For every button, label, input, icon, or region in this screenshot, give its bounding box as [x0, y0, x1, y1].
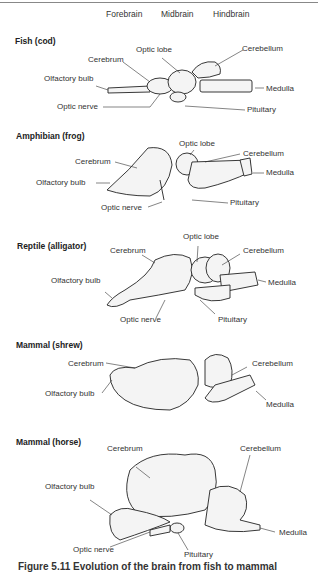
label-alligator-medulla: Medulla [268, 278, 296, 287]
label-shrew-olfactory-bulb: Olfactory bulb [45, 389, 94, 398]
label-horse-olfactory-bulb: Olfactory bulb [45, 482, 94, 491]
label-shrew-cerebellum: Cerebellum [252, 359, 293, 368]
label-shrew-medulla: Medulla [266, 400, 294, 409]
label-frog-pituitary: Pituitary [230, 198, 259, 207]
label-alligator-olfactory-bulb: Olfactory bulb [51, 276, 100, 285]
section-title-horse: Mammal (horse) [16, 437, 81, 447]
section-title-fish: Fish (cod) [15, 36, 56, 46]
label-fish-medulla: Medulla [266, 84, 294, 93]
label-alligator-cerebellum: Cerebellum [243, 246, 284, 255]
label-horse-cerebellum: Cerebellum [240, 444, 281, 453]
label-fish-olfactory-bulb: Olfactory bulb [44, 74, 93, 83]
label-frog-cerebrum: Cerebrum [75, 157, 111, 166]
horse-brain-drawing [110, 454, 260, 540]
label-horse-optic-nerve: Optic nerve [73, 545, 114, 554]
section-title-shrew: Mammal (shrew) [16, 340, 83, 350]
label-frog-olfactory-bulb: Olfactory bulb [36, 178, 85, 187]
label-alligator-cerebrum: Cerebrum [110, 246, 146, 255]
label-fish-optic-nerve: Optic nerve [57, 102, 98, 111]
frog-brain-drawing [107, 148, 252, 200]
fish-brain-drawing [108, 62, 252, 102]
label-horse-cerebrum: Cerebrum [107, 444, 143, 453]
label-shrew-cerebrum: Cerebrum [68, 359, 104, 368]
shrew-brain-drawing [110, 354, 255, 410]
section-title-alligator: Reptile (alligator) [17, 241, 86, 251]
label-frog-optic-lobe: Optic lobe [179, 139, 215, 148]
label-alligator-pituitary: Pituitary [218, 315, 247, 324]
label-alligator-optic-lobe: Optic lobe [183, 232, 219, 241]
label-frog-cerebellum: Cerebellum [243, 149, 284, 158]
figure-caption: Figure 5.11 Evolution of the brain from … [18, 561, 277, 572]
label-horse-medulla: Medulla [279, 528, 307, 537]
label-fish-cerebrum: Cerebrum [88, 55, 124, 64]
label-horse-pituitary: Pituitary [184, 550, 213, 559]
label-alligator-optic-nerve: Optic nerve [120, 315, 161, 324]
section-title-frog: Amphibian (frog) [16, 131, 84, 141]
label-frog-medulla: Medulla [266, 168, 294, 177]
label-frog-optic-nerve: Optic nerve [101, 203, 142, 212]
label-fish-optic-lobe: Optic lobe [136, 45, 172, 54]
alligator-brain-drawing [107, 254, 258, 307]
label-fish-pituitary: Pituitary [247, 105, 276, 114]
label-fish-cerebellum: Cerebellum [242, 44, 283, 53]
